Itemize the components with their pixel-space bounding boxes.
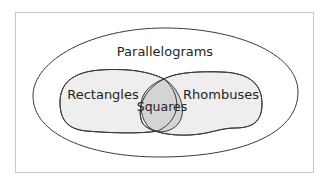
label-rhombuses: Rhombuses bbox=[183, 87, 259, 102]
venn-diagram: Parallelograms Rectangles Rhombuses Squa… bbox=[0, 0, 325, 183]
label-rectangles: Rectangles bbox=[67, 87, 139, 102]
label-squares: Squares bbox=[137, 99, 188, 114]
label-parallelograms: Parallelograms bbox=[117, 44, 214, 59]
